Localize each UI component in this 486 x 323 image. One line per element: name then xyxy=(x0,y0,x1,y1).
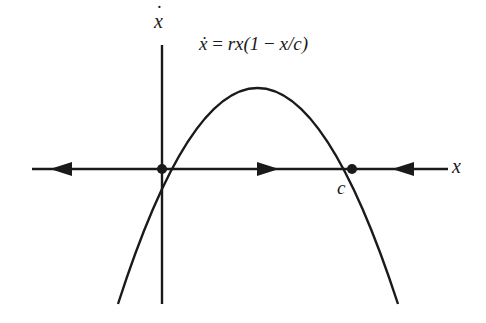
fixed-point-c xyxy=(347,164,357,174)
arrow-left-icon xyxy=(392,162,414,176)
vertical-axis-label: x xyxy=(154,10,163,33)
arrow-right-icon xyxy=(257,162,279,176)
logistic-curve xyxy=(118,88,398,304)
equation-label: ẋ = rx(1 − x/c) xyxy=(199,33,308,55)
fixed-point-origin xyxy=(157,164,167,174)
fixed-point-c-label: c xyxy=(337,177,345,199)
arrow-left-icon xyxy=(50,162,72,176)
horizontal-axis-label: x xyxy=(452,155,461,178)
